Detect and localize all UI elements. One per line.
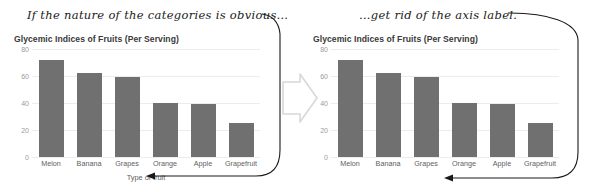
bar-apple: [191, 104, 216, 157]
bar-series: [32, 49, 260, 157]
bar-banana: [77, 73, 102, 157]
xlabel-banana: Banana: [369, 159, 407, 168]
bar-column: [483, 49, 521, 157]
ytick-40: 40: [313, 100, 328, 107]
bar-apple: [490, 104, 515, 157]
ytick-20: 20: [313, 127, 328, 134]
bar-column: [32, 49, 70, 157]
x-axis-title: Type of fruit: [32, 173, 260, 182]
xlabel-apple: Apple: [483, 159, 521, 168]
ytick-0: 0: [313, 154, 328, 161]
xlabel-grapefruit: Grapefruit: [521, 159, 559, 168]
bar-grapes: [115, 77, 140, 157]
plot-area: 80 60 40 20 0: [313, 49, 559, 157]
bar-column: [407, 49, 445, 157]
ytick-60: 60: [14, 73, 29, 80]
xlabel-grapefruit: Grapefruit: [222, 159, 260, 168]
xlabel-apple: Apple: [184, 159, 222, 168]
panel-before: If the nature of the categories is obvio…: [0, 0, 299, 192]
xlabel-melon: Melon: [32, 159, 70, 168]
bar-column: [445, 49, 483, 157]
bar-chart-after: Glycemic Indices of Fruits (Per Serving)…: [313, 34, 559, 184]
bar-orange: [452, 103, 477, 157]
bar-column: [108, 49, 146, 157]
annotation-after: …get rid of the axis label.: [359, 8, 517, 22]
ytick-80: 80: [313, 46, 328, 53]
xlabel-grapes: Grapes: [407, 159, 445, 168]
bar-column: [184, 49, 222, 157]
x-axis-labels: Melon Banana Grapes Orange Apple Grapefr…: [331, 159, 559, 168]
bar-series: [331, 49, 559, 157]
ytick-80: 80: [14, 46, 29, 53]
bar-chart-before: Glycemic Indices of Fruits (Per Serving)…: [14, 34, 260, 184]
bar-grapefruit: [528, 123, 553, 157]
ytick-40: 40: [14, 100, 29, 107]
chart-title: Glycemic Indices of Fruits (Per Serving): [14, 34, 179, 44]
bar-orange: [153, 103, 178, 157]
bar-banana: [376, 73, 401, 157]
chart-title: Glycemic Indices of Fruits (Per Serving): [313, 34, 478, 44]
bar-melon: [338, 60, 363, 157]
annotation-before: If the nature of the categories is obvio…: [27, 8, 288, 22]
x-axis-labels: Melon Banana Grapes Orange Apple Grapefr…: [32, 159, 260, 168]
plot-area: 80 60 40 20 0: [14, 49, 260, 157]
xlabel-banana: Banana: [70, 159, 108, 168]
ytick-60: 60: [313, 73, 328, 80]
bar-column: [146, 49, 184, 157]
xlabel-orange: Orange: [146, 159, 184, 168]
ytick-0: 0: [14, 154, 29, 161]
xlabel-grapes: Grapes: [108, 159, 146, 168]
bar-melon: [39, 60, 64, 157]
panel-after: …get rid of the axis label. Glycemic Ind…: [299, 0, 598, 192]
xlabel-melon: Melon: [331, 159, 369, 168]
bar-grapes: [414, 77, 439, 157]
gridline-0: [32, 157, 260, 158]
bar-column: [369, 49, 407, 157]
xlabel-orange: Orange: [445, 159, 483, 168]
ytick-20: 20: [14, 127, 29, 134]
bar-column: [521, 49, 559, 157]
bar-grapefruit: [229, 123, 254, 157]
bar-column: [70, 49, 108, 157]
bar-column: [222, 49, 260, 157]
gridline-0: [331, 157, 559, 158]
bar-column: [331, 49, 369, 157]
